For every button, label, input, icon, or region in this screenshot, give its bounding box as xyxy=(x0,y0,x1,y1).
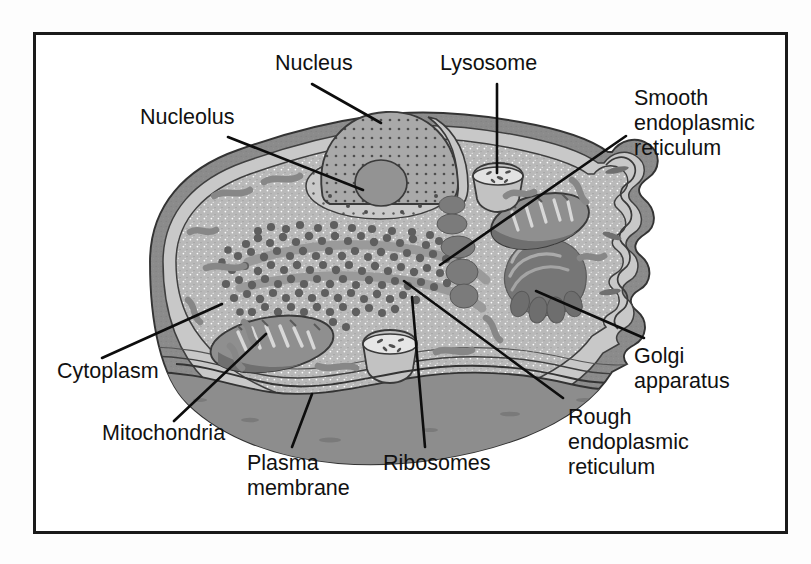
figure-border xyxy=(33,32,788,534)
figure-canvas: Nucleus Lysosome Nucleolus Smooth endopl… xyxy=(0,0,811,564)
